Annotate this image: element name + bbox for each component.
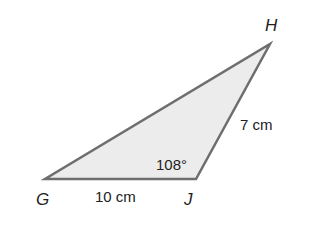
- side-jh-length: 7 cm: [240, 116, 273, 133]
- vertex-label-j: J: [183, 190, 193, 209]
- triangle-diagram: H G J 10 cm 7 cm 108°: [0, 0, 312, 250]
- angle-j-measure: 108°: [156, 156, 187, 173]
- vertex-label-g: G: [36, 190, 49, 209]
- vertex-label-h: H: [265, 16, 278, 35]
- side-gj-length: 10 cm: [95, 188, 136, 205]
